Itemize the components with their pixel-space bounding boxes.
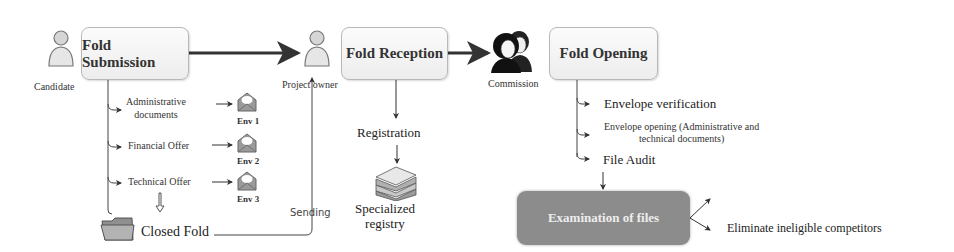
commission-label: Commission bbox=[488, 78, 539, 89]
folder-icon bbox=[100, 215, 136, 243]
file-audit-label: File Audit bbox=[603, 152, 655, 168]
envelope-icon bbox=[236, 170, 258, 192]
person-icon bbox=[302, 28, 332, 68]
document-stack-icon bbox=[372, 163, 420, 201]
examination-of-files-box: Examination of files bbox=[517, 191, 690, 245]
closed-fold-folder bbox=[100, 215, 136, 247]
envelope-verification-label: Envelope verification bbox=[604, 96, 716, 112]
candidate-actor bbox=[46, 28, 76, 68]
project-owner-actor bbox=[302, 28, 332, 68]
envelope-2 bbox=[236, 132, 258, 158]
sending-label: Sending bbox=[290, 207, 331, 218]
fold-reception-stage: Fold Reception bbox=[341, 27, 448, 80]
fold-opening-stage: Fold Opening bbox=[549, 27, 658, 80]
envelope-1 bbox=[236, 91, 258, 117]
commission-actor bbox=[489, 28, 533, 78]
env-1-label: Env 1 bbox=[237, 116, 259, 126]
technical-offer-label: Technical Offer bbox=[128, 176, 191, 187]
envelope-opening-label: Envelope opening (Administrative and tec… bbox=[604, 121, 759, 145]
financial-offer-label: Financial Offer bbox=[128, 140, 189, 151]
admin-line1: Administrative bbox=[126, 96, 186, 107]
registry-line2: registry bbox=[365, 216, 405, 231]
group-icon bbox=[489, 28, 533, 74]
envelope-icon bbox=[236, 91, 258, 113]
eliminate-competitors-label: Eliminate ineligible competitors bbox=[727, 221, 882, 236]
env-2-label: Env 2 bbox=[237, 156, 259, 166]
closed-fold-label: Closed Fold bbox=[141, 224, 209, 240]
fold-submission-stage: Fold Submission bbox=[81, 27, 189, 80]
person-icon bbox=[46, 28, 76, 68]
admin-line2: documents bbox=[134, 109, 177, 120]
envelope-3 bbox=[236, 170, 258, 196]
env-3-label: Env 3 bbox=[237, 194, 259, 204]
registry-line1: Specialized bbox=[355, 201, 415, 216]
specialized-registry-label: Specialized registry bbox=[355, 201, 415, 231]
administrative-documents-label: Administrative documents bbox=[126, 95, 186, 121]
specialized-registry-stack bbox=[372, 163, 420, 205]
project-owner-label: Project owner bbox=[282, 79, 338, 90]
opening-line1: Envelope opening (Administrative and bbox=[604, 121, 759, 132]
candidate-label: Candidate bbox=[34, 81, 75, 92]
registration-label: Registration bbox=[357, 125, 421, 141]
opening-line2: technical documents) bbox=[639, 133, 724, 144]
envelope-icon bbox=[236, 132, 258, 154]
